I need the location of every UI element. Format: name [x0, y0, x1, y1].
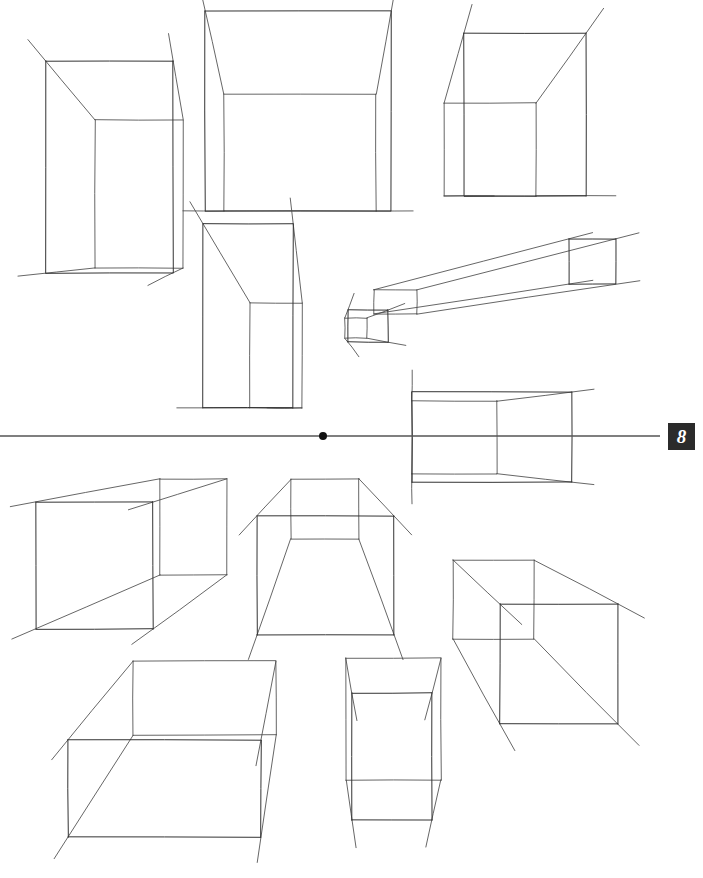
- perspective-box: [239, 479, 411, 660]
- page-number-badge: 8: [668, 423, 695, 450]
- perspective-box: [10, 479, 227, 645]
- perspective-box: [183, 0, 413, 211]
- perspective-box: [412, 370, 594, 504]
- perspective-box: [18, 34, 183, 286]
- perspective-box: [345, 293, 406, 356]
- perspective-box: [52, 661, 277, 863]
- vanishing-point: [319, 432, 327, 440]
- boxes-layer: [10, 0, 644, 862]
- perspective-drawing-page: 8: [0, 0, 703, 878]
- perspective-box: [346, 658, 442, 848]
- perspective-box: [453, 560, 645, 751]
- perspective-box: [177, 198, 302, 408]
- perspective-box: [374, 233, 640, 315]
- perspective-box: [444, 4, 616, 196]
- horizon-layer: [0, 432, 660, 440]
- perspective-drawing-canvas: [0, 0, 703, 878]
